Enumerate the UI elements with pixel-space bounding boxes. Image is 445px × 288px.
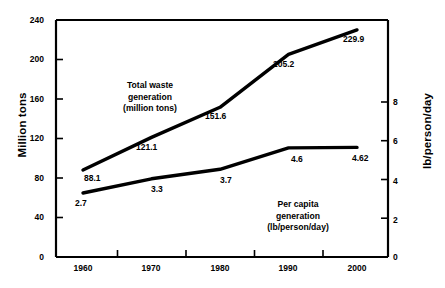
point-label-percapita-1960: 2.7 xyxy=(75,198,87,208)
point-label-percapita-1970: 3.3 xyxy=(151,184,163,194)
point-label-percapita-2000: 4.62 xyxy=(352,153,369,163)
total-waste-annotation-line-1: Total waste xyxy=(95,80,205,92)
per-capita-annotation-line-2: generation xyxy=(238,211,358,223)
per-capita-annotation-line-1: Per capita xyxy=(238,199,358,211)
point-label-total-1970: 121.1 xyxy=(136,142,157,152)
point-label-total-1980: 151.6 xyxy=(205,111,226,121)
series-line-per-capita xyxy=(83,147,357,193)
point-label-total-1990: 205.2 xyxy=(273,59,294,69)
total-waste-annotation-line-2: generation xyxy=(95,92,205,104)
waste-generation-chart: Million tons lb/person/day 240 200 160 1… xyxy=(0,0,445,288)
point-label-percapita-1990: 4.6 xyxy=(291,154,303,164)
total-waste-annotation: Total waste generation (million tons) xyxy=(95,80,205,115)
point-label-total-2000: 229.9 xyxy=(343,34,364,44)
total-waste-annotation-line-3: (million tons) xyxy=(95,103,205,115)
per-capita-annotation: Per capita generation (lb/person/day) xyxy=(238,199,358,234)
per-capita-annotation-line-3: (lb/person/day) xyxy=(238,222,358,234)
plot-area xyxy=(0,0,445,288)
point-label-total-1960: 88.1 xyxy=(84,173,101,183)
point-label-percapita-1980: 3.7 xyxy=(220,175,232,185)
